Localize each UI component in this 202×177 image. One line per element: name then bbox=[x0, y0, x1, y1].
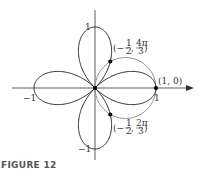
point-origin bbox=[93, 86, 97, 90]
x-pos-label: 1 bbox=[154, 93, 160, 103]
point-label-2pi3: (− 1 2 , 2π 3 ) bbox=[113, 118, 148, 136]
point-2pi3 bbox=[108, 112, 112, 116]
svg-text:,: , bbox=[131, 43, 134, 53]
y-neg-label: −1 bbox=[78, 144, 91, 154]
point-4pi3 bbox=[108, 60, 112, 64]
y-pos-label: 1 bbox=[85, 22, 91, 32]
point-label-4pi3: (− 1 2 , 4π 3 ) bbox=[113, 38, 148, 56]
svg-text:(−: (− bbox=[113, 43, 124, 53]
figure-caption: FIGURE 12 bbox=[1, 160, 57, 170]
svg-text:): ) bbox=[144, 123, 148, 133]
svg-text:(−: (− bbox=[113, 123, 124, 133]
point-1-0 bbox=[154, 86, 158, 90]
x-neg-label: −1 bbox=[23, 93, 36, 103]
point-label-1-0: (1, 0) bbox=[158, 76, 182, 86]
svg-text:,: , bbox=[131, 123, 134, 133]
svg-text:): ) bbox=[144, 43, 148, 53]
x-axis-arrow-icon bbox=[186, 85, 194, 91]
polar-chart: 1 −1 −1 1 (1, 0) (− 1 2 , 4π 3 ) (− 1 2 … bbox=[0, 0, 202, 177]
